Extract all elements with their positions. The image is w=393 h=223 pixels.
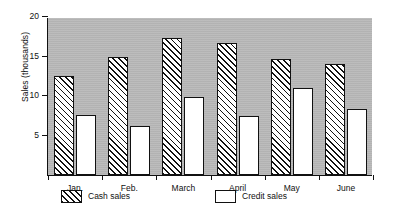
legend-item-credit-sales: Credit sales [215,190,287,203]
bar-group [108,57,150,176]
y-axis-tick-label: 20 [30,11,39,21]
legend-label: Credit sales [242,191,287,201]
bar-group [217,43,259,175]
x-axis-label-march: March [172,183,196,193]
y-axis-tick-label: 15 [30,51,39,61]
y-axis-tick-label: 5 [34,130,39,140]
bar-group [325,64,367,175]
legend-swatch-icon [61,190,82,203]
bar-group [271,59,313,175]
x-axis-tick [211,175,212,180]
x-axis-tick [319,175,320,180]
bar-cash-sales [162,38,182,175]
bar-cash-sales [325,64,345,175]
y-axis-tick: 10 [42,95,48,96]
y-axis-tick: 5 [42,135,48,136]
y-axis-tick: 15 [42,56,48,57]
plot-background-texture [48,18,372,175]
bar-credit-sales [130,126,150,175]
x-axis-tick [102,175,103,180]
bar-credit-sales [293,88,313,175]
plot-area: 5101520 Jan.Feb.MarchAprilMayJune [47,18,372,176]
bar-credit-sales [239,116,259,175]
bar-cash-sales [271,59,291,175]
bar-cash-sales [217,43,237,175]
bar-group [54,76,96,175]
y-axis-title: Sales (thousands) [20,0,30,137]
bar-group [162,38,204,175]
bar-credit-sales [76,115,96,175]
bar-credit-sales [347,109,367,175]
x-axis-tick [156,175,157,180]
y-axis-tick: 20 [42,16,48,17]
bar-credit-sales [184,97,204,175]
y-axis-tick-label: 10 [30,90,39,100]
x-axis-tick [373,175,374,180]
legend-swatch-icon [215,190,236,203]
legend-label: Cash sales [88,191,130,201]
bar-cash-sales [54,76,74,175]
legend-item-cash-sales: Cash sales [61,190,130,203]
x-axis-label-june: June [337,183,355,193]
bar-cash-sales [108,57,128,176]
x-axis-tick [265,175,266,180]
x-axis-tick [48,175,49,180]
bar-chart-figure: Sales (thousands) 5101520 Jan.Feb.MarchA… [0,0,393,223]
